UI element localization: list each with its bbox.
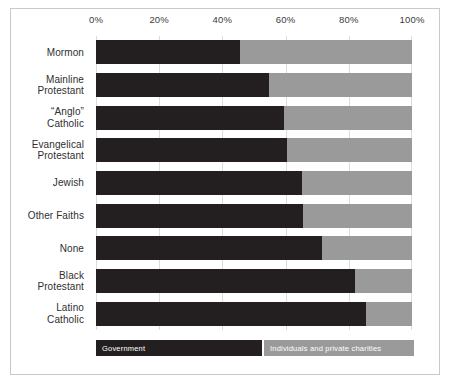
bar-row[interactable] xyxy=(96,106,412,130)
bar-row[interactable] xyxy=(96,236,412,260)
legend-label: Government xyxy=(96,344,145,353)
category-label: MainlineProtestant xyxy=(0,74,84,97)
bar-segment[interactable] xyxy=(366,302,412,326)
category-label-line: Mormon xyxy=(0,47,84,59)
bar-segment[interactable] xyxy=(269,73,412,97)
bar-segment[interactable] xyxy=(96,204,303,228)
category-label: Mormon xyxy=(0,47,84,59)
category-label-line: Black xyxy=(0,270,84,282)
x-axis-tick-label: 60% xyxy=(276,14,296,25)
category-label: “Anglo”Catholic xyxy=(0,106,84,129)
x-axis-tick-label: 80% xyxy=(339,14,359,25)
legend-label: Individuals and private charities xyxy=(264,344,381,353)
bar-row[interactable] xyxy=(96,73,412,97)
bar-segment[interactable] xyxy=(284,106,412,130)
bar-segment[interactable] xyxy=(322,236,412,260)
bar-segment[interactable] xyxy=(302,171,412,195)
chart-container: 0%20%40%60%80%100% MormonMainlineProtest… xyxy=(0,0,458,388)
category-label-line: Latino xyxy=(0,302,84,314)
legend-item[interactable]: Individuals and private charities xyxy=(264,340,414,356)
bar-segment[interactable] xyxy=(303,204,412,228)
category-label-line: Mainline xyxy=(0,74,84,86)
bar-row[interactable] xyxy=(96,302,412,326)
legend-item[interactable]: Government xyxy=(96,340,262,356)
bar-segment[interactable] xyxy=(96,106,284,130)
bar-row[interactable] xyxy=(96,171,412,195)
category-label: Jewish xyxy=(0,177,84,189)
bar-row[interactable] xyxy=(96,40,412,64)
bar-segment[interactable] xyxy=(240,40,412,64)
plot-area xyxy=(96,36,412,330)
category-label-line: None xyxy=(0,243,84,255)
category-axis-labels: MormonMainlineProtestant“Anglo”CatholicE… xyxy=(0,36,88,330)
category-label-line: Evangelical xyxy=(0,139,84,151)
bar-segment[interactable] xyxy=(96,171,302,195)
bar-segment[interactable] xyxy=(96,236,322,260)
x-axis-tick-label: 100% xyxy=(399,14,424,25)
bar-segment[interactable] xyxy=(96,269,355,293)
category-label: EvangelicalProtestant xyxy=(0,139,84,162)
bar-segment[interactable] xyxy=(355,269,412,293)
bar-segment[interactable] xyxy=(287,138,412,162)
bar-row[interactable] xyxy=(96,204,412,228)
x-axis-tick-label: 20% xyxy=(149,14,169,25)
chart-legend: GovernmentIndividuals and private charit… xyxy=(96,340,412,356)
category-label: BlackProtestant xyxy=(0,270,84,293)
bar-segment[interactable] xyxy=(96,40,240,64)
bar-segment[interactable] xyxy=(96,73,269,97)
category-label: Other Faiths xyxy=(0,210,84,222)
category-label-line: Other Faiths xyxy=(0,210,84,222)
category-label: None xyxy=(0,243,84,255)
category-label-line: Protestant xyxy=(0,281,84,293)
category-label-line: Catholic xyxy=(0,118,84,130)
bar-row[interactable] xyxy=(96,138,412,162)
category-label-line: “Anglo” xyxy=(0,106,84,118)
category-label-line: Jewish xyxy=(0,177,84,189)
x-axis-tick-label: 0% xyxy=(89,14,103,25)
category-label-line: Protestant xyxy=(0,85,84,97)
bar-segment[interactable] xyxy=(96,302,366,326)
category-label: LatinoCatholic xyxy=(0,302,84,325)
category-label-line: Protestant xyxy=(0,150,84,162)
x-axis-tick-label: 40% xyxy=(213,14,233,25)
bar-segment[interactable] xyxy=(96,138,287,162)
category-label-line: Catholic xyxy=(0,314,84,326)
bar-row[interactable] xyxy=(96,269,412,293)
x-axis-tick-labels: 0%20%40%60%80%100% xyxy=(0,14,458,30)
